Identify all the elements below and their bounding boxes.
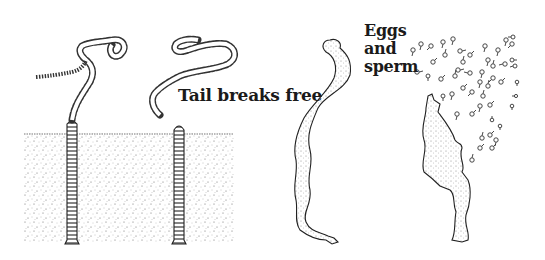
gamete <box>496 48 500 56</box>
eggs-and-sperm-line-3: sperm <box>364 58 418 76</box>
spawning-tail <box>423 94 471 242</box>
gamete <box>488 131 494 137</box>
gamete <box>490 116 494 122</box>
gamete <box>470 110 476 116</box>
gamete <box>512 94 518 97</box>
gamete <box>499 78 505 84</box>
gamete <box>510 104 514 110</box>
tail-breaks-free-label: Tail breaks free <box>178 87 322 104</box>
gamete <box>486 58 490 66</box>
gamete <box>508 42 514 48</box>
gamete <box>510 58 517 62</box>
gamete <box>480 132 484 140</box>
sediment-block <box>24 133 234 243</box>
burrowed-worm-2 <box>172 126 186 244</box>
gamete <box>455 112 459 120</box>
gamete <box>450 92 454 100</box>
gamete <box>464 71 472 75</box>
gamete <box>490 144 496 150</box>
gamete <box>468 51 474 57</box>
gamete <box>439 75 445 81</box>
eggs-and-sperm-line-2: and <box>364 40 418 58</box>
gamete <box>489 76 495 82</box>
gamete <box>499 62 507 66</box>
gamete <box>480 70 484 78</box>
gamete <box>491 60 495 68</box>
gamete <box>494 138 498 146</box>
gamete <box>478 104 482 112</box>
palolo-worm-diagram <box>0 0 545 260</box>
gamete <box>483 44 487 52</box>
gamete <box>461 84 467 90</box>
free-swimming-tail <box>295 39 351 244</box>
gamete <box>451 37 455 45</box>
gamete <box>515 80 519 86</box>
gamete <box>481 90 485 98</box>
gamete <box>456 68 464 72</box>
gamete <box>443 49 447 57</box>
gamete <box>427 44 433 50</box>
gamete <box>458 49 466 53</box>
gamete <box>478 80 482 88</box>
eggs-and-sperm-label: Eggs and sperm <box>364 22 418 76</box>
gamete <box>426 74 430 81</box>
gamete <box>441 40 445 48</box>
gamete <box>431 58 437 64</box>
gamete <box>468 90 474 96</box>
gamete <box>510 64 517 68</box>
beaded-tail-attached <box>36 40 124 120</box>
gamete <box>478 144 484 150</box>
eggs-and-sperm-line-1: Eggs <box>364 22 418 40</box>
gamete <box>461 56 465 64</box>
gamete <box>508 35 515 39</box>
gamete <box>504 38 508 46</box>
gamete <box>470 154 474 162</box>
burrowed-worm-1 <box>65 121 79 244</box>
gamete <box>441 94 445 101</box>
gamete <box>488 101 494 107</box>
gamete <box>498 124 502 130</box>
gamete <box>419 42 423 50</box>
